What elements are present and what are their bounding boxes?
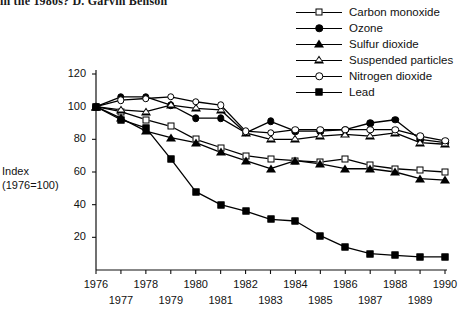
x-tick-label-1988: 1988: [378, 278, 412, 290]
y-tick-label: 60: [60, 165, 86, 177]
x-tick-label-1979: 1979: [154, 294, 188, 306]
y-tick-label: 80: [60, 132, 86, 144]
x-tick-label-1986: 1986: [328, 278, 362, 290]
data-series-layer: [0, 0, 459, 313]
x-tick-label-1976: 1976: [79, 278, 113, 290]
x-tick-label-1990: 1990: [428, 278, 459, 290]
x-tick-label-1983: 1983: [254, 294, 288, 306]
x-tick-label-1984: 1984: [278, 278, 312, 290]
x-tick-label-1987: 1987: [353, 294, 387, 306]
x-tick-label-1978: 1978: [129, 278, 163, 290]
x-tick-label-1977: 1977: [104, 294, 138, 306]
x-tick-label-1985: 1985: [303, 294, 337, 306]
y-axis-title-line: Index: [2, 165, 29, 178]
y-tick-label: 40: [60, 198, 86, 210]
y-tick-label: 20: [60, 230, 86, 242]
figure-chart-air-quality-index: in the 1980s? D. Garvin Benson Carbon mo…: [0, 0, 459, 313]
y-axis-title-line: (1976=100): [2, 179, 59, 192]
plot-area: 20406080100120 1976197819801982198419861…: [0, 0, 459, 313]
y-tick-label: 100: [60, 100, 86, 112]
x-tick-label-1980: 1980: [179, 278, 213, 290]
y-tick-label: 120: [60, 67, 86, 79]
x-tick-label-1989: 1989: [403, 294, 437, 306]
x-tick-label-1981: 1981: [204, 294, 238, 306]
x-tick-label-1982: 1982: [229, 278, 263, 290]
